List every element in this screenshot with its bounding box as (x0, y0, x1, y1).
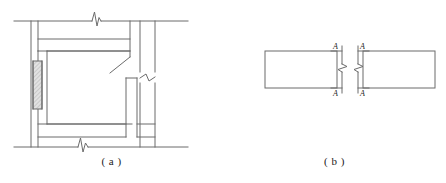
top-beam (38, 21, 130, 57)
panel-b-drawing (265, 46, 435, 93)
break-symbol-panel-b-right (354, 46, 363, 93)
panel-b-caption: ( b ) (223, 155, 446, 167)
break-symbol-bottom (78, 138, 88, 152)
break-symbol-right-column (140, 74, 155, 81)
interior-column (126, 78, 137, 137)
panel-a-caption: ( a ) (0, 155, 223, 167)
left-beam-segment (265, 51, 337, 88)
figure-root: A A A A ( a ) ( b ) (0, 0, 446, 183)
panel-a-drawing (14, 12, 188, 152)
break-symbol-top (92, 12, 101, 26)
section-mark-top-right-label: A (359, 42, 365, 51)
right-column (140, 21, 155, 147)
infill-wall (33, 61, 42, 109)
section-mark-top-left-label: A (332, 42, 338, 51)
bay-outline (47, 51, 132, 124)
break-symbol-panel-b-left (338, 46, 347, 93)
right-beam-segment (363, 51, 435, 88)
section-mark-bottom-right-label: A (359, 89, 365, 98)
section-mark-bottom-left-label: A (332, 89, 338, 98)
leader-line (110, 57, 130, 73)
